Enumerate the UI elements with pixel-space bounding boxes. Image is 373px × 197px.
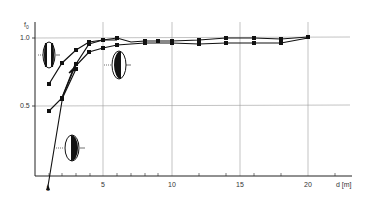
axes xyxy=(35,22,352,176)
series-lower-markers xyxy=(60,41,283,101)
ellipse-icon-right-dark xyxy=(56,135,85,161)
gridlines xyxy=(35,22,350,176)
series-lower xyxy=(60,38,308,101)
series-middle xyxy=(47,40,117,113)
y-tick-label-0-5: 0.5 xyxy=(20,102,30,109)
x-axis-title: d [m] xyxy=(336,181,352,189)
grid-y-0-5 xyxy=(35,105,350,106)
x-tick-label-15: 15 xyxy=(236,181,244,188)
ellipse-icon-center-stripe xyxy=(38,42,60,68)
x-tick-label-5: 5 xyxy=(101,181,105,188)
y-axis-title: f0 xyxy=(24,21,29,30)
x-tick-label-10: 10 xyxy=(168,181,176,188)
x-tick-label-20: 20 xyxy=(304,181,312,188)
ellipse-icon-left-dark xyxy=(104,51,131,79)
y-tick-label-1-0: 1.0 xyxy=(20,34,30,41)
chart: 1.0 0.5 1 5 10 15 20 f0 d [m] xyxy=(0,0,373,197)
